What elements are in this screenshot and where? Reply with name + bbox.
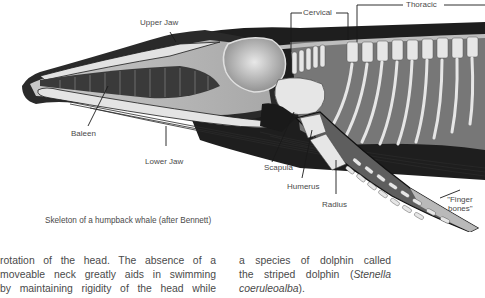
body-text-line: a species of dolphin called [239,254,391,268]
figure-caption: Skeleton of a humpback whale (after Benn… [45,216,211,225]
body-text-line: rotation of the head. The absence of a [0,254,216,268]
body-text-line: moveable neck greatly aids in swimming [0,268,216,282]
label-cervical: Cervical [303,8,332,17]
body-text-left-column: rotation of the head. The absence of a m… [0,254,216,297]
label-scapula: Scapula [264,163,293,172]
body-text-fragment: the striped dolphin ( [239,269,353,280]
whale-skeleton-illustration [0,0,485,232]
body-text-line: the striped dolphin (Stenella [239,268,391,282]
label-baleen: Baleen [71,129,96,138]
label-upper-jaw: Upper Jaw [140,18,178,27]
label-finger-bones-line2: bones" [448,204,473,213]
whale-skeleton-figure: Upper Jaw Cervical Thoracic Baleen Lower… [0,0,485,232]
label-thoracic: Thoracic [406,0,437,9]
body-text-line: by maintaining rigidity of the head whil… [0,282,216,296]
label-humerus: Humerus [287,182,319,191]
label-finger-bones: "Finger bones" [447,195,473,213]
label-lower-jaw: Lower Jaw [145,157,183,166]
species-name-epithet: coeruleoalba [239,283,299,294]
body-text-right-column: a species of dolphin called the striped … [239,254,391,297]
body-text-fragment: ). [299,283,305,294]
body-text-line: coeruleoalba). [239,282,391,296]
label-finger-bones-line1: "Finger [447,195,473,204]
label-radius: Radius [322,200,347,209]
species-name-genus: Stenella [353,269,391,280]
